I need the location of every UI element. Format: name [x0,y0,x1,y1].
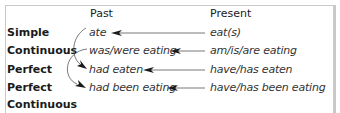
row-label-simple: Simple [7,26,49,39]
row-label-perfect: Perfect [7,63,52,76]
present-continuous-form: am/is/are eating [210,44,297,57]
column-header-present: Present [210,8,251,20]
past-continuous-form: was/were eating [89,44,177,57]
past-perfect-form: had eaten [89,63,143,76]
row-label-perfect-continuous-line2: Continuous [7,98,77,111]
past-simple-form: ate [89,26,106,39]
present-perfect-form: have/has eaten [210,63,292,76]
present-simple-form: eat(s) [210,26,241,39]
row-label-continuous: Continuous [7,44,77,57]
present-perfect-continuous-form: have/has been eating [210,81,325,94]
past-perfect-continuous-form: had been eating [89,81,176,94]
diagram-frame [5,5,336,113]
row-label-perfect-continuous-line1: Perfect [7,81,52,94]
column-header-past: Past [90,8,113,20]
